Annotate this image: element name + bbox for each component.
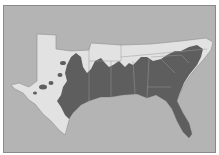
range-patch — [58, 73, 63, 77]
map-canvas — [4, 6, 216, 153]
range-patch — [39, 85, 47, 90]
range-patch — [33, 92, 37, 95]
range-patch — [60, 61, 66, 65]
range-patch — [49, 81, 54, 85]
map-frame — [3, 5, 216, 153]
